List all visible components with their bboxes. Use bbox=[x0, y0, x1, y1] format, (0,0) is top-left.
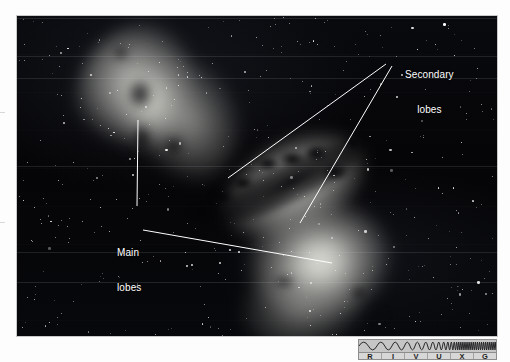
star bbox=[49, 322, 50, 323]
star bbox=[371, 289, 372, 290]
star bbox=[97, 108, 98, 109]
star bbox=[273, 173, 274, 174]
star bbox=[332, 334, 333, 335]
star bbox=[401, 74, 403, 76]
star bbox=[99, 281, 100, 282]
star bbox=[452, 309, 453, 310]
star bbox=[466, 113, 467, 114]
star bbox=[100, 125, 101, 126]
star bbox=[218, 328, 219, 329]
star bbox=[52, 73, 53, 74]
star bbox=[408, 270, 409, 271]
star bbox=[177, 67, 178, 68]
star bbox=[275, 24, 276, 25]
star bbox=[390, 169, 393, 172]
star bbox=[389, 149, 392, 152]
star bbox=[456, 247, 457, 248]
star bbox=[382, 47, 383, 48]
star bbox=[469, 91, 470, 92]
star bbox=[67, 48, 68, 49]
star bbox=[230, 222, 231, 223]
star bbox=[318, 223, 320, 225]
star bbox=[234, 223, 235, 224]
star bbox=[262, 172, 263, 173]
star bbox=[45, 325, 46, 326]
star bbox=[263, 180, 264, 181]
star bbox=[148, 71, 149, 72]
star bbox=[187, 176, 188, 177]
star bbox=[289, 23, 290, 24]
star bbox=[35, 294, 36, 295]
waveform-svg bbox=[359, 340, 496, 352]
star bbox=[317, 150, 318, 151]
star bbox=[450, 264, 451, 265]
star bbox=[406, 235, 407, 236]
star bbox=[266, 70, 267, 71]
star bbox=[462, 289, 463, 290]
star bbox=[199, 75, 200, 76]
annotation-main-lobes: Main lobes bbox=[117, 224, 141, 316]
star bbox=[58, 225, 59, 226]
star bbox=[173, 232, 174, 233]
star bbox=[169, 140, 170, 141]
star bbox=[267, 125, 268, 126]
star bbox=[274, 18, 275, 19]
star bbox=[493, 119, 494, 120]
scan-band-line bbox=[17, 166, 497, 167]
star bbox=[454, 55, 455, 56]
star bbox=[25, 322, 26, 323]
star bbox=[443, 23, 446, 26]
annotation-secondary-lobes: Secondary lobes bbox=[405, 46, 454, 138]
star bbox=[187, 72, 188, 73]
star bbox=[73, 301, 74, 302]
star bbox=[208, 317, 209, 318]
star bbox=[396, 96, 398, 98]
star bbox=[458, 212, 459, 213]
figure-page: Secondary lobes Main lobes RIVUXG bbox=[0, 0, 510, 362]
star bbox=[61, 95, 62, 96]
star bbox=[214, 248, 215, 249]
star bbox=[411, 27, 414, 30]
star bbox=[365, 31, 366, 32]
star bbox=[372, 270, 373, 271]
page-margin-tick-bottom bbox=[0, 222, 5, 223]
star bbox=[320, 207, 321, 208]
star bbox=[344, 307, 345, 308]
star bbox=[313, 40, 314, 41]
star bbox=[116, 199, 117, 200]
star bbox=[171, 105, 172, 106]
star bbox=[79, 46, 80, 47]
star bbox=[456, 210, 457, 211]
spectrum-band-g: G bbox=[474, 353, 496, 359]
star bbox=[93, 180, 94, 181]
star bbox=[27, 162, 28, 163]
star bbox=[459, 293, 462, 296]
spectrum-band-x: X bbox=[451, 353, 474, 359]
spectrum-band-u: U bbox=[428, 353, 451, 359]
star bbox=[391, 27, 392, 28]
star bbox=[279, 242, 280, 243]
star bbox=[481, 260, 482, 261]
star bbox=[375, 191, 376, 192]
spectrum-band-i: I bbox=[382, 353, 405, 359]
star bbox=[244, 264, 245, 265]
star bbox=[487, 324, 488, 325]
star bbox=[298, 171, 299, 172]
star bbox=[317, 152, 318, 153]
annotation-main-line1: Main bbox=[117, 247, 141, 259]
star bbox=[477, 281, 480, 284]
star bbox=[238, 251, 240, 253]
star bbox=[461, 232, 462, 233]
star bbox=[40, 219, 41, 220]
spectrum-band-r: R bbox=[359, 353, 382, 359]
star bbox=[454, 34, 455, 35]
star bbox=[346, 61, 347, 62]
star bbox=[363, 273, 364, 274]
star bbox=[24, 44, 25, 45]
star bbox=[132, 174, 134, 176]
star bbox=[148, 194, 149, 195]
star bbox=[315, 18, 316, 19]
star bbox=[311, 85, 312, 86]
star bbox=[309, 252, 310, 253]
star bbox=[393, 214, 394, 215]
